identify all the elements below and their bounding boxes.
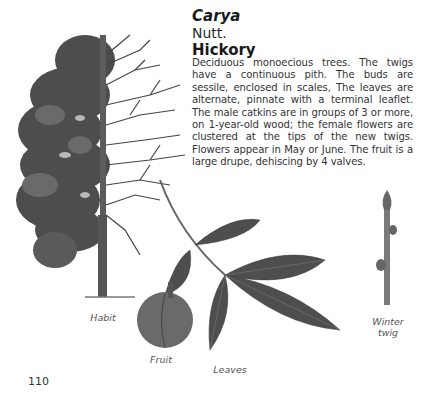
description: Deciduous monoecious trees. The twigs ha… bbox=[192, 57, 413, 169]
page-number: 110 bbox=[28, 375, 49, 388]
fruit-caption: Fruit bbox=[146, 354, 176, 365]
genus-name: Carya bbox=[192, 7, 240, 25]
winter-twig-caption-line1: Winter bbox=[368, 316, 408, 327]
leaves-caption: Leaves bbox=[210, 364, 250, 375]
winter-twig-caption: Winter twig bbox=[368, 316, 408, 338]
winter-twig-caption-line2: twig bbox=[368, 327, 408, 338]
winter-twig-icon bbox=[372, 185, 402, 310]
habit-caption: Habit bbox=[88, 312, 118, 323]
author-abbreviation: Nutt. bbox=[192, 25, 227, 41]
hickory-nut-icon bbox=[130, 280, 200, 350]
